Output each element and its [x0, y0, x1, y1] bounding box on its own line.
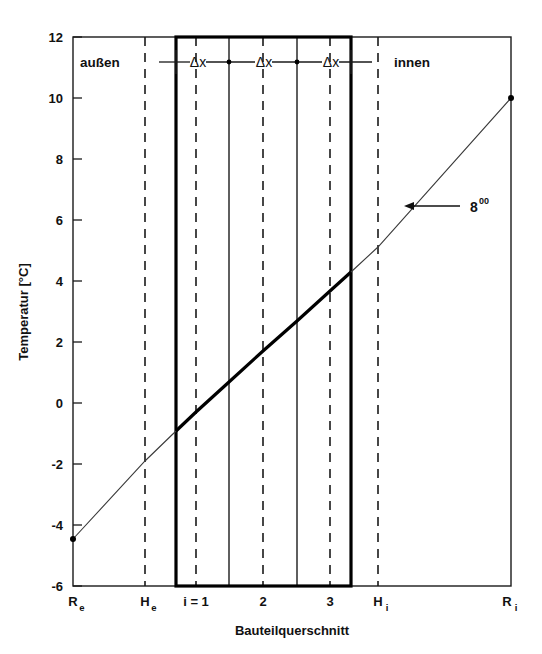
profile-line-outer: [73, 431, 176, 539]
x-tick-Re-base: R: [68, 594, 78, 609]
x-tick-Hi-base: H: [373, 594, 382, 609]
y-tick-2: 2: [56, 335, 63, 350]
endpoint-marker-Ri: [508, 95, 514, 101]
temperature-profile-chart: 12 10 8 6 4 2 0 -2 -4 -6 Temperatur [°C]: [0, 0, 542, 654]
y-axis-tick-labels: 12 10 8 6 4 2 0 -2 -4 -6: [49, 30, 64, 594]
y-tick-m6: -6: [51, 579, 63, 594]
annotation-label-base: 8: [470, 199, 478, 215]
y-tick-4: 4: [56, 274, 64, 289]
y-axis-title: Temperatur [°C]: [16, 263, 31, 360]
x-tick-i1: i = 1: [183, 594, 209, 609]
annotation-arrowhead: [404, 202, 414, 210]
x-tick-Re-sub: e: [79, 602, 84, 613]
y-tick-6: 6: [56, 213, 63, 228]
delta-x-label-3: Δx: [323, 54, 339, 70]
y-tick-12: 12: [49, 30, 63, 45]
region-label-innen: innen: [394, 55, 430, 70]
region-label-aussen: außen: [80, 55, 120, 70]
x-axis-tick-labels: R e H e i = 1 2 3 H i R i: [68, 594, 517, 613]
x-tick-He-sub: e: [151, 602, 156, 613]
annotation-label-sup: 00: [479, 196, 489, 206]
y-tick-8: 8: [56, 152, 63, 167]
y-tick-0: 0: [56, 396, 63, 411]
y-axis-ticks: [73, 37, 82, 586]
plot-frame: [73, 37, 511, 586]
x-tick-Hi-sub: i: [386, 602, 389, 613]
y-tick-10: 10: [49, 91, 63, 106]
delta-x-label-1: Δx: [190, 54, 206, 70]
chart-figure: 12 10 8 6 4 2 0 -2 -4 -6 Temperatur [°C]: [0, 0, 542, 654]
y-tick-m2: -2: [51, 457, 63, 472]
x-axis-title: Bauteilquerschnitt: [235, 623, 350, 638]
x-tick-He-base: H: [140, 594, 149, 609]
x-tick-i3: 3: [326, 594, 333, 609]
profile-line-inner: [351, 98, 511, 272]
y-tick-m4: -4: [51, 518, 63, 533]
endpoint-marker-Re: [70, 536, 76, 542]
delta-x-label-2: Δx: [256, 54, 272, 70]
x-tick-Ri-sub: i: [515, 602, 518, 613]
annotation-8-00: 8 00: [404, 196, 489, 215]
x-tick-i2: 2: [259, 594, 266, 609]
delta-x-measure-bar: Δx Δx Δx: [159, 50, 372, 74]
x-tick-Ri-base: R: [502, 594, 512, 609]
